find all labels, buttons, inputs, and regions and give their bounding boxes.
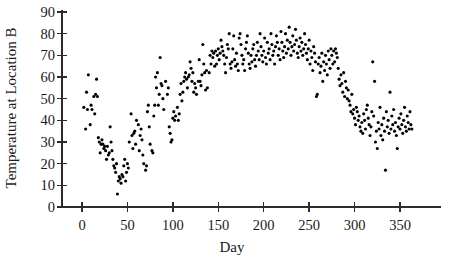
data-point <box>309 49 312 52</box>
data-point <box>126 162 129 165</box>
x-tick-label: 350 <box>389 217 411 233</box>
data-point <box>217 47 220 50</box>
data-point <box>366 104 369 107</box>
data-point <box>295 39 298 42</box>
data-point <box>166 93 169 96</box>
data-point <box>364 127 367 130</box>
data-point <box>300 41 303 44</box>
data-point <box>172 110 175 113</box>
data-point <box>372 114 375 117</box>
data-point <box>155 86 158 89</box>
data-point <box>168 125 171 128</box>
data-point <box>133 130 136 133</box>
data-point <box>302 47 305 50</box>
y-tick-label: 60 <box>41 69 56 85</box>
data-point <box>161 97 164 100</box>
data-point <box>174 114 177 117</box>
data-point <box>319 65 322 68</box>
data-point <box>110 140 113 143</box>
data-point <box>184 71 187 74</box>
data-point <box>258 58 261 61</box>
data-point <box>367 117 370 120</box>
data-point <box>292 49 295 52</box>
data-point <box>103 145 106 148</box>
data-point <box>195 93 198 96</box>
data-point <box>320 52 323 55</box>
data-point <box>407 121 410 124</box>
data-point <box>154 75 157 78</box>
y-tick-label: 20 <box>41 156 56 172</box>
data-point <box>256 41 259 44</box>
data-point <box>223 62 226 65</box>
data-point <box>266 41 269 44</box>
data-point <box>216 54 219 57</box>
data-point <box>398 127 401 130</box>
data-point <box>89 123 92 126</box>
data-point <box>330 54 333 57</box>
data-point <box>260 54 263 57</box>
data-point <box>229 67 232 70</box>
chart-canvas: 0102030405060708090 05010015020025030035… <box>0 0 449 260</box>
data-point <box>251 47 254 50</box>
y-tick-label: 70 <box>41 47 56 63</box>
data-point <box>269 32 272 35</box>
data-point <box>224 71 227 74</box>
data-point <box>336 56 339 59</box>
data-point <box>304 43 307 46</box>
data-point <box>280 41 283 44</box>
data-point <box>239 32 242 35</box>
data-point <box>307 47 310 50</box>
data-point <box>294 28 297 31</box>
y-tick-label: 50 <box>41 91 56 107</box>
data-point <box>363 119 366 122</box>
data-point <box>209 62 212 65</box>
data-point <box>169 132 172 135</box>
data-point <box>188 73 191 76</box>
data-point <box>263 36 266 39</box>
data-point <box>351 112 354 115</box>
data-point <box>389 127 392 130</box>
data-point <box>408 127 411 130</box>
data-point <box>328 58 331 61</box>
data-point <box>182 80 185 83</box>
data-point <box>374 140 377 143</box>
data-point <box>109 125 112 128</box>
data-point <box>93 112 96 115</box>
x-tick-label: 150 <box>207 217 229 233</box>
data-point <box>191 71 194 74</box>
data-point <box>375 130 378 133</box>
data-point <box>358 114 361 117</box>
data-point <box>176 106 179 109</box>
data-point <box>362 112 365 115</box>
data-point <box>145 164 148 167</box>
data-point <box>134 143 137 146</box>
data-point <box>137 123 140 126</box>
data-point <box>286 39 289 42</box>
data-point <box>151 151 154 154</box>
x-tick-label: 50 <box>120 217 135 233</box>
data-point <box>356 110 359 113</box>
data-point <box>222 54 225 57</box>
data-point <box>239 43 242 46</box>
data-point <box>179 93 182 96</box>
data-point <box>361 132 364 135</box>
data-point <box>108 151 111 154</box>
data-point <box>231 47 234 50</box>
data-point <box>387 119 390 122</box>
data-point <box>358 125 361 128</box>
y-tick-label: 40 <box>41 112 56 128</box>
scatter-plot-figure: 0102030405060708090 05010015020025030035… <box>0 0 449 260</box>
data-point <box>296 52 299 55</box>
data-point <box>373 80 376 83</box>
data-point <box>264 56 267 59</box>
data-point <box>262 49 265 52</box>
data-point <box>333 60 336 63</box>
data-point <box>293 43 296 46</box>
x-tick-label: 100 <box>162 217 184 233</box>
y-tick-label: 90 <box>41 4 56 20</box>
data-point <box>391 123 394 126</box>
data-point <box>90 108 93 111</box>
data-point <box>288 26 291 29</box>
y-tick-label: 80 <box>41 26 56 42</box>
x-tick-label: 300 <box>344 217 366 233</box>
